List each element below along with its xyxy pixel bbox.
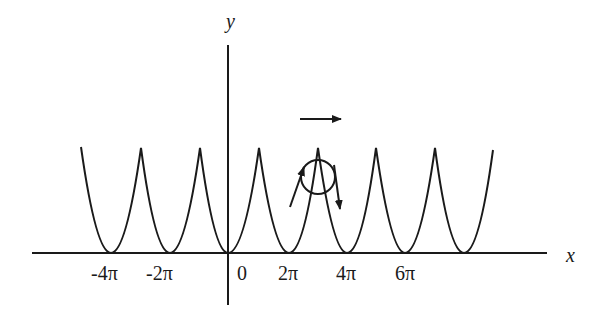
periodic-curve bbox=[81, 147, 493, 253]
tick-label-neg-2pi: -2π bbox=[146, 262, 173, 284]
tick-label-neg-4pi: -4π bbox=[91, 262, 118, 284]
y-axis-label: y bbox=[224, 10, 235, 33]
up-slope-arrow bbox=[290, 167, 304, 207]
tick-label-2pi: 2π bbox=[278, 262, 298, 284]
x-axis-label: x bbox=[565, 244, 575, 266]
tick-label-6pi: 6π bbox=[395, 262, 415, 284]
down-slope-arrow bbox=[334, 165, 340, 209]
tick-label-0: 0 bbox=[237, 262, 247, 284]
diagram-canvas: y x -4π -2π 0 2π 4π 6π bbox=[0, 0, 602, 330]
tick-label-4pi: 4π bbox=[336, 262, 356, 284]
ball-circle bbox=[301, 160, 335, 194]
